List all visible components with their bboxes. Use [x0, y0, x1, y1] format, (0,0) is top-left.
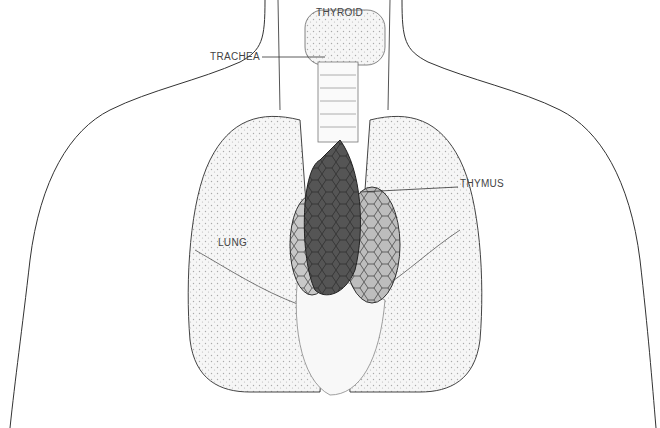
- anatomy-illustration: [0, 0, 660, 428]
- label-lung: LUNG: [218, 237, 247, 248]
- label-thyroid: THYROID: [316, 7, 363, 18]
- label-trachea: TRACHEA: [210, 51, 260, 62]
- label-thymus: THYMUS: [460, 178, 504, 189]
- trachea: [318, 62, 358, 142]
